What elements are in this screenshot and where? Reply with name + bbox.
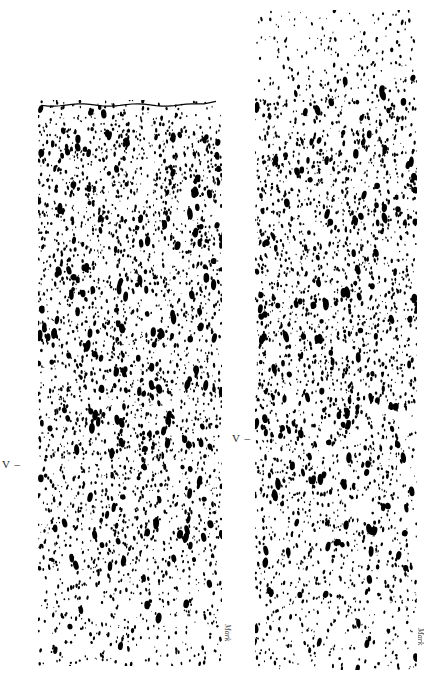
cell-stipple-right [255,10,417,670]
layer-v-marker-right: V – [232,432,251,444]
cell-stipple-left [38,100,222,666]
layer-v-marker-left: V – [2,458,21,470]
artist-signature-right: Mark [416,628,425,645]
artist-signature-left: Mark [223,624,232,641]
cortex-section-left [38,100,222,666]
cortex-section-right [255,10,417,670]
